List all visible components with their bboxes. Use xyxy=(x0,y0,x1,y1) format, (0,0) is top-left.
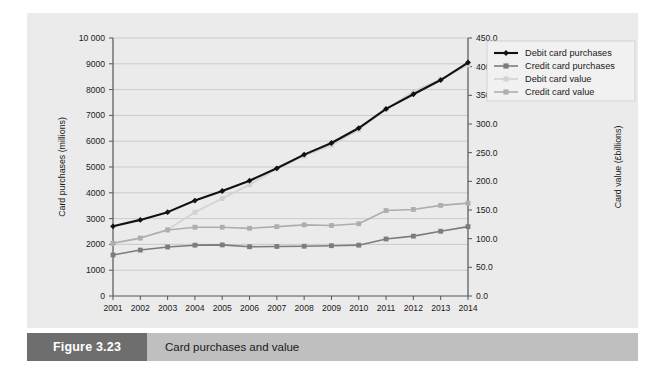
y2-axis-title: Card value (£billions) xyxy=(613,126,623,209)
y-axis-tick-label: 2000 xyxy=(86,239,105,249)
y2-axis-tick-label: 200.0 xyxy=(476,176,498,186)
y2-axis-tick-label: 250.0 xyxy=(476,148,498,158)
x-axis-tick-label: 2013 xyxy=(431,303,450,313)
data-point-marker xyxy=(356,243,361,248)
y-axis-tick-label: 3000 xyxy=(86,214,105,224)
data-point-marker xyxy=(384,208,389,213)
x-axis-tick-label: 2005 xyxy=(213,303,232,313)
data-point-marker xyxy=(438,229,443,234)
x-axis-tick-label: 2006 xyxy=(240,303,259,313)
x-axis-tick-label: 2009 xyxy=(322,303,341,313)
y2-axis-tick-label: 50.0 xyxy=(476,262,493,272)
data-point-marker xyxy=(193,243,198,248)
y-axis-tick-label: 9000 xyxy=(86,59,105,69)
y2-axis-tick-label: 100.0 xyxy=(476,234,498,244)
legend-label: Credit card purchases xyxy=(525,61,615,71)
x-axis-tick-label: 2008 xyxy=(295,303,314,313)
x-axis-tick-label: 2004 xyxy=(185,303,204,313)
data-point-marker xyxy=(411,207,416,212)
figure-caption-text: Card purchases and value xyxy=(147,333,299,361)
chart-canvas: 010002000300040005000600070008000900010 … xyxy=(27,13,638,328)
x-axis-tick-label: 2007 xyxy=(267,303,286,313)
card-purchases-and-value-chart: 010002000300040005000600070008000900010 … xyxy=(27,13,638,328)
y2-axis-tick-label: 0.0 xyxy=(476,291,488,301)
data-point-marker xyxy=(193,210,198,215)
y-axis-tick-label: 4000 xyxy=(86,188,105,198)
y-axis-tick-label: 8000 xyxy=(86,85,105,95)
x-axis-tick-label: 2011 xyxy=(377,303,396,313)
data-point-marker xyxy=(466,224,471,229)
y-axis-tick-label: 7000 xyxy=(86,110,105,120)
data-point-marker xyxy=(111,241,116,246)
x-axis-tick-label: 2003 xyxy=(158,303,177,313)
y-axis-tick-label: 1000 xyxy=(86,265,105,275)
data-point-marker xyxy=(384,237,389,242)
data-point-marker xyxy=(165,245,170,250)
figure-caption-bar: Figure 3.23 Card purchases and value xyxy=(27,333,638,361)
data-point-marker xyxy=(247,244,252,249)
figure-root: 010002000300040005000600070008000900010 … xyxy=(0,0,666,380)
y-axis-tick-label: 6000 xyxy=(86,136,105,146)
y-axis-title: Card purchases (millions) xyxy=(57,117,67,217)
data-point-marker xyxy=(111,253,116,258)
x-axis-tick-label: 2012 xyxy=(404,303,423,313)
y-axis-tick-label: 10 000 xyxy=(79,33,106,43)
y2-axis-tick-label: 150.0 xyxy=(476,205,498,215)
y-axis-tick-label: 0 xyxy=(100,291,105,301)
legend-label: Debit card purchases xyxy=(525,48,612,58)
data-point-marker xyxy=(138,236,143,241)
data-point-marker xyxy=(220,196,225,201)
data-point-marker xyxy=(302,244,307,249)
x-axis-tick-label: 2001 xyxy=(103,303,122,313)
data-point-marker xyxy=(302,223,307,228)
data-point-marker xyxy=(193,225,198,230)
data-point-marker xyxy=(274,244,279,249)
data-point-marker xyxy=(138,248,143,253)
figure-number: Figure 3.23 xyxy=(27,333,147,361)
legend-swatch-marker xyxy=(503,63,508,68)
x-axis-tick-label: 2014 xyxy=(458,303,477,313)
x-axis-tick-label: 2010 xyxy=(349,303,368,313)
legend-swatch-marker xyxy=(503,76,508,81)
legend-swatch-marker xyxy=(503,89,508,94)
y2-axis-tick-label: 300.0 xyxy=(476,119,498,129)
data-point-marker xyxy=(356,221,361,226)
data-point-marker xyxy=(329,243,334,248)
data-point-marker xyxy=(411,234,416,239)
data-point-marker xyxy=(329,223,334,228)
data-point-marker xyxy=(220,243,225,248)
legend-label: Credit card value xyxy=(525,87,594,97)
data-point-marker xyxy=(466,201,471,206)
y-axis-tick-label: 5000 xyxy=(86,162,105,172)
legend-label: Debit card value xyxy=(525,74,591,84)
x-axis-tick-label: 2002 xyxy=(131,303,150,313)
data-point-marker xyxy=(247,226,252,231)
data-point-marker xyxy=(220,225,225,230)
data-point-marker xyxy=(165,228,170,233)
chart-legend: Debit card purchasesCredit card purchase… xyxy=(487,41,635,101)
data-point-marker xyxy=(438,203,443,208)
data-point-marker xyxy=(274,224,279,229)
